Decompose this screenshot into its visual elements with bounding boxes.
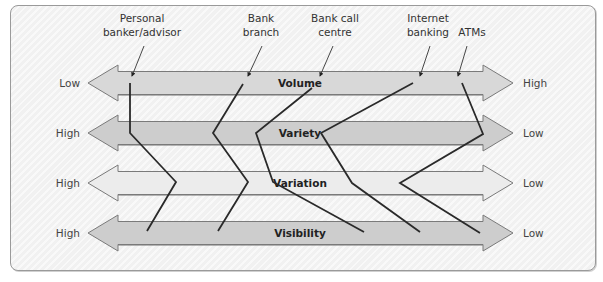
left-scale-label: High — [56, 177, 80, 189]
service-label-line2: banking — [407, 26, 449, 38]
service-labels: Personalbanker/advisorBankbranchBank cal… — [103, 12, 486, 76]
profile-line-personal-banker-advisor — [130, 83, 176, 231]
dimension-variation: VariationHighLow — [56, 165, 544, 201]
service-label-line2: branch — [243, 26, 280, 38]
profile-line-bank-branch — [213, 84, 248, 231]
left-scale-label: High — [56, 227, 80, 239]
profile-line-atms — [400, 83, 483, 233]
right-scale-label: Low — [523, 177, 544, 189]
service-label-line1: Bank — [248, 12, 275, 24]
service-label-bank-call-centre: Bank callcentre — [311, 12, 359, 76]
dimension-visibility: VisibilityHighLow — [56, 215, 544, 251]
right-scale-label: Low — [523, 127, 544, 139]
left-scale-label: High — [56, 127, 80, 139]
profile-line-bank-call-centre — [256, 88, 364, 232]
service-label-line1: Internet — [407, 12, 449, 24]
service-label-line2: banker/advisor — [103, 26, 182, 38]
profile-line-internet-banking — [321, 83, 420, 232]
dimension-label: Volume — [278, 77, 322, 89]
right-scale-label: Low — [523, 227, 544, 239]
service-label-internet-banking: Internetbanking — [407, 12, 449, 76]
dimension-variety: VarietyHighLow — [56, 115, 544, 151]
service-label-line2: ATMs — [458, 26, 485, 38]
dimension-label: Variety — [279, 127, 322, 139]
left-scale-label: Low — [59, 77, 80, 89]
service-profile-lines — [130, 83, 483, 233]
service-label-bank-branch: Bankbranch — [243, 12, 280, 76]
service-label-atms: ATMs — [458, 26, 486, 76]
service-label-line1: Bank call — [311, 12, 359, 24]
service-label-line2: centre — [318, 26, 352, 38]
dimension-label: Visibility — [274, 227, 326, 239]
four-vs-diagram: VolumeLowHighVarietyHighLowVariationHigh… — [0, 0, 603, 282]
service-label-line1: Personal — [120, 12, 165, 24]
right-scale-label: High — [523, 77, 547, 89]
